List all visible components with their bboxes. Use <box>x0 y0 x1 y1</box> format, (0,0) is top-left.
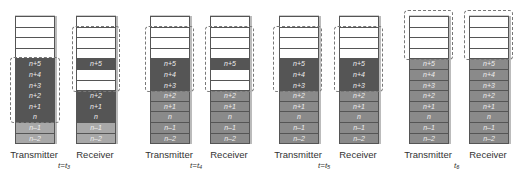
time-label: t=t₃ <box>58 161 70 170</box>
time-label: t₆ <box>454 161 459 170</box>
frame-cell: n–2 <box>77 134 115 144</box>
frame-cell: n–2 <box>340 134 378 144</box>
frame-cell: n–1 <box>470 123 508 134</box>
frame-cell: n+5 <box>470 59 508 70</box>
frame-cell: n–2 <box>211 134 249 144</box>
frame-cell: n–1 <box>410 123 448 134</box>
receiver-window-t5 <box>334 26 383 92</box>
frame-cell: n+2 <box>410 91 448 102</box>
receiver-window-t4 <box>205 26 254 92</box>
frame-cell: n+1 <box>340 102 378 113</box>
frame-cell: n+2 <box>151 91 189 102</box>
receiver-label: Receiver <box>199 149 259 160</box>
receiver-window-t6 <box>464 10 513 60</box>
receiver-label: Receiver <box>65 149 125 160</box>
frame-cell: n <box>77 112 115 123</box>
receiver-label: Receiver <box>458 149 518 160</box>
frame-cell: n–1 <box>16 123 54 134</box>
frame-cell: n–2 <box>470 134 508 144</box>
frame-cell: n+1 <box>211 102 249 113</box>
frame-cell: n+2 <box>470 91 508 102</box>
empty-cell <box>16 38 54 49</box>
frame-cell: n+3 <box>470 81 508 92</box>
frame-cell: n+2 <box>77 91 115 102</box>
frame-cell: n+3 <box>410 81 448 92</box>
frame-cell: n <box>280 112 318 123</box>
frame-cell: n+1 <box>151 102 189 113</box>
transmitter-window-t6 <box>404 10 453 60</box>
transmitter-window-t5 <box>273 26 322 92</box>
frame-cell: n+2 <box>340 91 378 102</box>
frame-cell: n <box>410 112 448 123</box>
frame-cell: n+1 <box>280 102 318 113</box>
frame-cell: n <box>151 112 189 123</box>
transmitter-label: Transmitter <box>398 149 458 160</box>
frame-cell: n–2 <box>16 134 54 144</box>
frame-cell: n–2 <box>151 134 189 144</box>
frame-cell: n+2 <box>280 91 318 102</box>
time-label: t=t₄ <box>190 161 202 170</box>
frame-cell: n–2 <box>410 134 448 144</box>
transmitter-window-t4 <box>145 26 194 92</box>
frame-cell: n+1 <box>410 102 448 113</box>
frame-cell: n+4 <box>410 70 448 81</box>
frame-cell: n <box>211 112 249 123</box>
frame-cell: n <box>470 112 508 123</box>
frame-cell: n–1 <box>280 123 318 134</box>
frame-cell: n–1 <box>151 123 189 134</box>
transmitter-label: Transmitter <box>139 149 199 160</box>
frame-cell: n+5 <box>410 59 448 70</box>
time-label: t=t₅ <box>318 161 330 170</box>
frame-cell: n <box>340 112 378 123</box>
frame-cell: n+2 <box>211 91 249 102</box>
frame-cell: n–1 <box>211 123 249 134</box>
transmitter-label: Transmitter <box>4 149 64 160</box>
frame-cell: n–1 <box>77 123 115 134</box>
frame-cell: n–1 <box>340 123 378 134</box>
empty-cell <box>16 28 54 39</box>
frame-cell: n+1 <box>77 102 115 113</box>
transmitter-label: Transmitter <box>268 149 328 160</box>
receiver-window-t3 <box>72 26 120 92</box>
empty-cell <box>16 17 54 28</box>
transmitter-window-t3 <box>10 57 60 123</box>
receiver-label: Receiver <box>328 149 388 160</box>
frame-cell: n–2 <box>280 134 318 144</box>
frame-cell: n+1 <box>470 102 508 113</box>
frame-cell: n+4 <box>470 70 508 81</box>
